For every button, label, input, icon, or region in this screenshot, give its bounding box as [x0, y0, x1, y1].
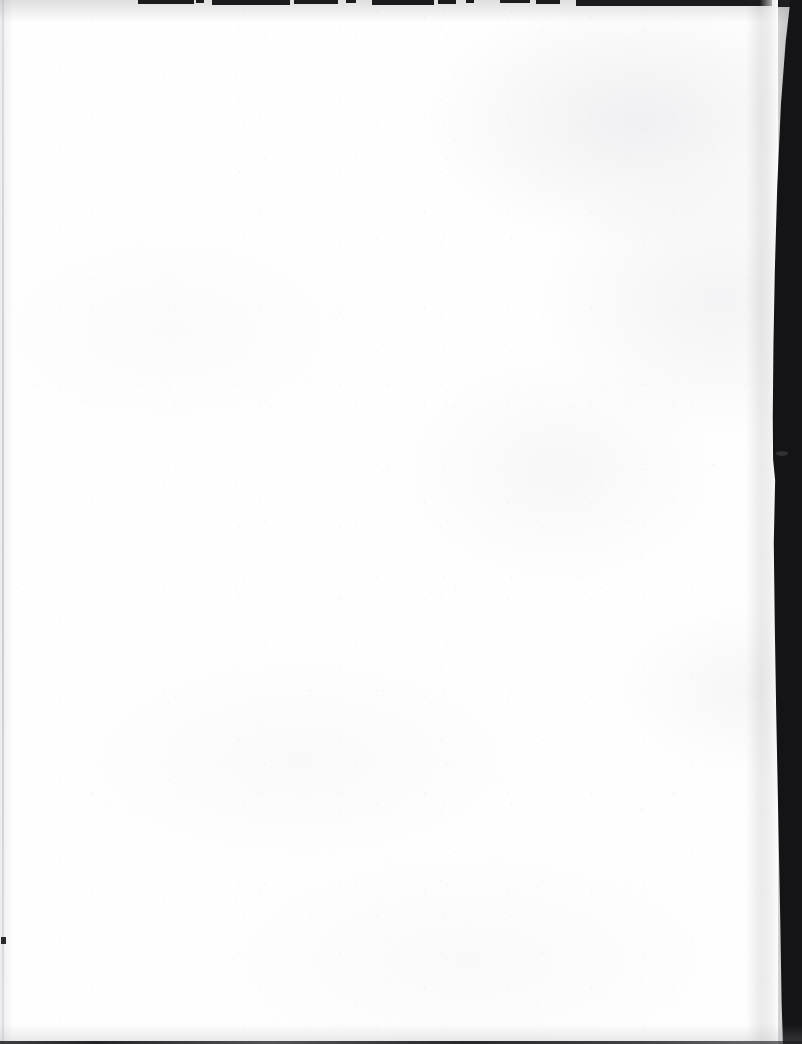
- page-content-area: [56, 52, 728, 992]
- scanned-page: [0, 0, 802, 1044]
